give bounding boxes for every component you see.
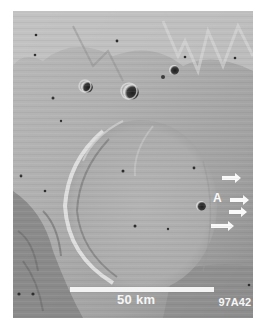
crater-photograph: A 50 km 97A42 — [13, 11, 253, 318]
feature-label-a: A — [213, 191, 222, 205]
terrain-render — [13, 11, 253, 318]
image-id-label: 97A42 — [219, 296, 251, 308]
scale-bar-label: 50 km — [117, 292, 155, 307]
